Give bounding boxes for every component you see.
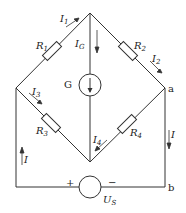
source-minus: − (108, 177, 116, 188)
source-plus: + (66, 177, 74, 188)
label-us: US (103, 194, 116, 207)
label-i-right: I (170, 129, 176, 140)
voltage-source (79, 176, 101, 198)
label-i3: I3 (31, 86, 41, 99)
label-r2: R2 (133, 40, 147, 53)
label-i4: I4 (92, 134, 101, 147)
circuit-svg: I1 R1 IG R2 I2 G a I3 R3 R4 I4 I I + − b… (0, 0, 186, 213)
label-r1: R1 (35, 40, 48, 53)
label-r4: R4 (129, 127, 142, 140)
node-a: a (168, 83, 174, 94)
label-ig: IG (74, 38, 85, 51)
label-galvanometer: G (64, 79, 72, 90)
label-i1: I1 (59, 13, 68, 26)
circuit-diagram: I1 R1 IG R2 I2 G a I3 R3 R4 I4 I I + − b… (0, 0, 186, 213)
node-b: b (168, 182, 174, 193)
label-r3: R3 (35, 125, 49, 138)
label-i-left: I (23, 154, 29, 165)
